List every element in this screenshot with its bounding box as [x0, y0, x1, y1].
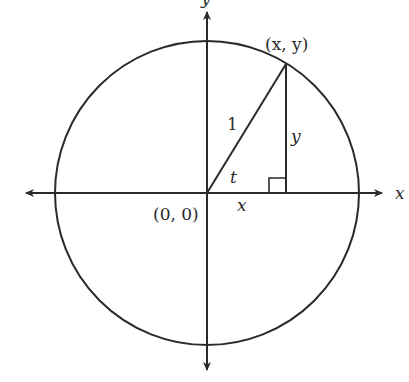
- horizontal-leg-label: x: [237, 195, 247, 215]
- unit-circle-diagram: (x, y) (0, 0) 1 t y x x y: [0, 0, 409, 382]
- hypotenuse-label: 1: [227, 114, 238, 134]
- y-axis-label: y: [200, 0, 211, 8]
- angle-label: t: [230, 167, 237, 187]
- point-label: (x, y): [265, 34, 308, 54]
- origin-label: (0, 0): [153, 204, 199, 224]
- x-axis-label: x: [395, 183, 405, 203]
- radius-line: [207, 64, 286, 193]
- vertical-leg-label: y: [290, 126, 301, 146]
- right-angle-mark: [269, 178, 286, 193]
